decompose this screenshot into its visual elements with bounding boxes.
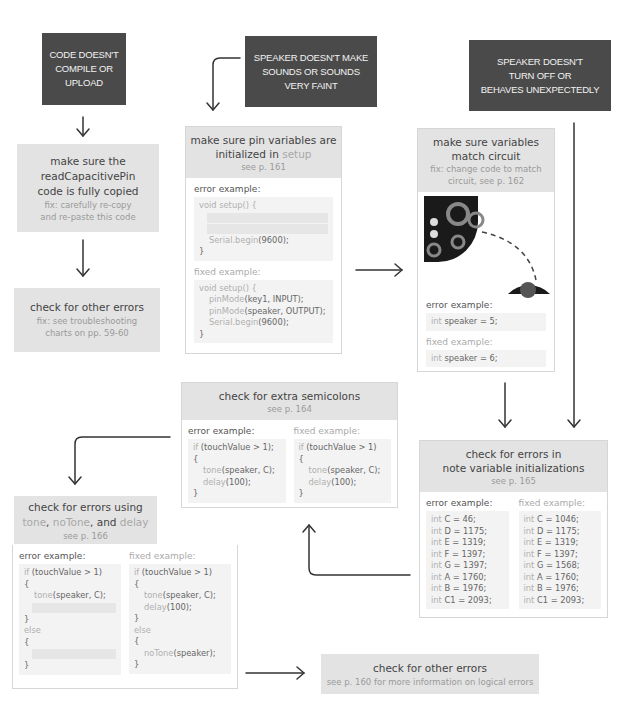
code-line: int B = 1976; [524,583,597,595]
circuit-card: make sure variables match circuit fix: c… [417,128,555,372]
code-text: (touchValue > 1) [29,567,102,577]
code-line: Serial.begin(9600); [199,317,328,329]
fixed-label: fixed example: [519,498,602,508]
error-label: error example: [194,184,333,194]
error-code: if (touchValue > 1) { tone(speaker, C); … [19,564,121,675]
code-text: (100); [226,477,251,487]
problem-text: VERY FAINT [254,79,368,93]
error-code: void setup() { Serial.begin(9600); } [194,197,333,261]
code-line: } [134,659,226,671]
code-line: } [199,329,328,341]
code-text: F = 1397; [537,549,578,559]
box-title: readCapacitivePin [17,169,159,184]
card-title-text: , [46,516,53,528]
other-errors-box-left: check for other errors fix: see troubles… [14,288,160,352]
code-line: if (touchValue > 1) [299,442,387,454]
code-text: E = 1319; [444,537,485,547]
code-text: (speaker, C); [327,465,380,475]
code-line: tone(speaker, C); [299,465,387,477]
missing-code-placeholder [207,224,328,234]
code-text: A = 1760; [444,572,486,582]
card-title-text: initialized in [215,148,282,160]
arrow-right-icon [356,264,402,276]
code-line: tone(speaker, C); [193,465,281,477]
problem-box-compile: CODE DOESN'T COMPILE OR UPLOAD [42,33,126,105]
code-text: (100); [167,602,192,612]
card-title: check for errors in [424,447,603,461]
error-label: error example: [19,551,121,561]
code-text: (touchValue > 1) [139,567,212,577]
card-title: make sure pin variables are [190,133,337,147]
keyword: delay [144,602,167,612]
keyword: tone [34,590,53,600]
problem-text: CODE DOESN'T [49,48,118,62]
code-line: int C1 = 2093; [431,595,504,607]
code-line: pinMode(key1, INPUT); [199,294,328,306]
keyword: tone [144,590,163,600]
keyword: delay [203,477,226,487]
code-line: int G = 1568; [524,560,597,572]
keyword: int [431,526,442,536]
code-line: int C = 1046; [524,514,597,526]
box-title: code is fully copied [17,184,159,199]
error-code: int C = 46;int D = 1175;int E = 1319;int… [426,511,509,609]
keyword: int [524,560,535,570]
problem-box-no-sound: SPEAKER DOESN'T MAKE SOUNDS OR SOUNDS VE… [245,36,377,107]
box-fix: and re-paste this code [17,211,159,223]
code-text: (100); [331,477,356,487]
semicolon-card: check for extra semicolons see p. 164 er… [181,382,398,508]
code-line: tone(speaker, C); [24,590,116,602]
code-text: B = 1976; [537,583,579,593]
card-fix: fix: change code to match [420,163,552,175]
missing-code-placeholder [32,649,116,659]
card-header: check for extra semicolons see p. 164 [182,383,397,420]
code-line: } [134,613,226,625]
code-text: (speaker, C); [163,590,216,600]
code-text: G = 1397; [444,560,487,570]
code-line: if (touchValue > 1); [193,442,281,454]
page-ref: see p. 160 for more information on logic… [321,676,539,688]
problem-text: UPLOAD [49,76,118,90]
arrow-elbow-icon [69,437,170,484]
code-line: pinMode(speaker, OUTPUT); [199,306,328,318]
keyword: Serial.begin [209,317,258,327]
code-line: } [24,660,116,672]
keyword: int [524,537,535,547]
fixed-code: if (touchValue > 1) { tone(speaker, C); … [129,564,231,674]
code-line: int C1 = 2093; [524,595,597,607]
card-fix: circuit, see p. 162 [420,175,552,187]
box-fix: charts on pp. 59-60 [14,327,160,339]
code-text: A = 1760; [537,572,579,582]
card-header: make sure pin variables are initialized … [186,127,341,178]
box-fix: fix: see troubleshooting [14,315,160,327]
keyword: int [431,316,442,326]
tone-card: error example: if (touchValue > 1) { ton… [12,545,238,689]
code-line: } [199,246,328,258]
arrow-right-icon [246,667,304,679]
problem-text: TURN OFF OR [481,69,600,83]
code-line: void setup() { [199,200,328,212]
card-title-text: , and [90,516,120,528]
keyword: int [431,353,442,363]
code-text: (speaker); [173,648,215,658]
arrow-down-icon [568,123,580,427]
card-title: initialized in setup [190,147,337,161]
code-text: C = 1046; [537,514,579,524]
code-line: else [24,625,116,637]
code-line: int F = 1397; [431,549,504,561]
code-line: int C = 46; [431,514,504,526]
keyword: tone [203,465,222,475]
copied-code-box: make sure the readCapacitivePin code is … [17,144,159,232]
keyword: delay [120,516,149,528]
code-line: Serial.begin(9600); [199,235,328,247]
code-line: if (touchValue > 1) [134,567,226,579]
fixed-label: fixed example: [194,267,333,277]
code-line: if (touchValue > 1) [24,567,116,579]
fixed-label: fixed example: [129,551,231,561]
code-line: { [24,579,116,591]
card-title: match circuit [420,149,552,163]
keyword: pinMode [209,306,244,316]
code-text: E = 1319; [537,537,578,547]
arrow-down-icon [499,383,511,427]
problem-text: BEHAVES UNEXPECTEDLY [481,83,600,97]
